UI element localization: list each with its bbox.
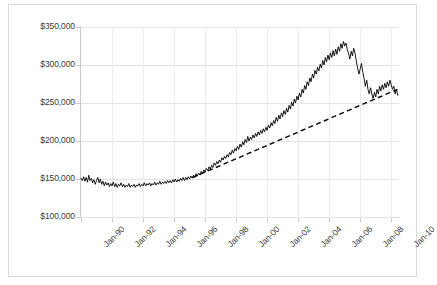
x-axis-tick bbox=[205, 218, 206, 222]
x-axis-tick bbox=[174, 218, 175, 222]
x-axis-tick bbox=[236, 218, 237, 222]
x-axis-tick bbox=[112, 218, 113, 222]
x-axis-tick bbox=[329, 218, 330, 222]
y-axis-tick bbox=[76, 141, 80, 142]
x-axis-tick-label: Jan-06 bbox=[350, 224, 375, 249]
x-axis-tick-label: Jan-96 bbox=[194, 224, 219, 249]
x-axis-tick-label: Jan-92 bbox=[132, 224, 157, 249]
x-axis-tick bbox=[360, 218, 361, 222]
x-axis-tick bbox=[81, 218, 82, 222]
x-axis-labels: Jan-90Jan-92Jan-94Jan-96Jan-98Jan-00Jan-… bbox=[9, 5, 416, 276]
x-axis-tick-label: Jan-98 bbox=[226, 224, 251, 249]
x-axis-tick-label: Jan-02 bbox=[288, 224, 313, 249]
x-axis-tick bbox=[391, 218, 392, 222]
y-axis-tick bbox=[76, 103, 80, 104]
y-axis-tick bbox=[76, 217, 80, 218]
x-axis-tick-label: Jan-04 bbox=[319, 224, 344, 249]
x-axis-tick bbox=[143, 218, 144, 222]
x-axis-tick-label: Jan-10 bbox=[412, 224, 437, 249]
x-axis-tick-label: Jan-90 bbox=[101, 224, 126, 249]
y-axis-tick bbox=[76, 65, 80, 66]
x-axis-tick bbox=[298, 218, 299, 222]
y-axis-tick bbox=[76, 27, 80, 28]
chart-frame: $100,000$150,000$200,000$250,000$300,000… bbox=[8, 4, 417, 277]
y-axis-tick bbox=[76, 179, 80, 180]
x-axis-tick-label: Jan-94 bbox=[163, 224, 188, 249]
x-axis-tick-label: Jan-00 bbox=[257, 224, 282, 249]
x-axis-tick bbox=[267, 218, 268, 222]
x-axis-tick-label: Jan-08 bbox=[381, 224, 406, 249]
